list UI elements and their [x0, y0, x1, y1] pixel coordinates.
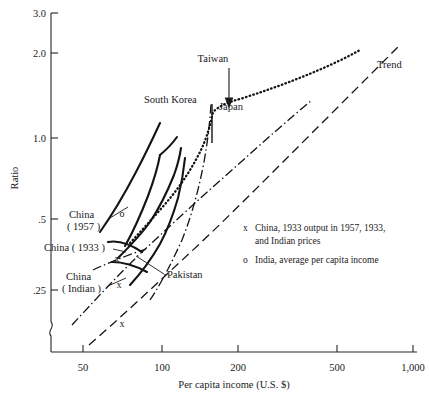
- ytick-label-2-0: 2.0: [33, 48, 46, 59]
- ytick-label-3-0: 3.0: [33, 8, 46, 19]
- legend-line-2: and Indian prices: [255, 236, 321, 246]
- chart-container: 3.0 2.0 1.0 .5 .25 Ratio 50 100 200 500 …: [0, 0, 429, 393]
- series-south-korea: [100, 123, 160, 232]
- y-axis-title: Ratio: [9, 167, 20, 190]
- legend-line-1: China, 1933 output in 1957, 1933,: [255, 223, 385, 233]
- label-china-1933: China ( 1933 ): [44, 242, 105, 254]
- label-south-korea: South Korea: [144, 94, 197, 105]
- xtick-label-500: 500: [329, 362, 345, 373]
- label-japan: Japan: [219, 101, 244, 112]
- legend-line-3: India, average per capita income: [255, 255, 379, 265]
- legend-marker-x: x: [243, 223, 248, 233]
- chart-svg: 3.0 2.0 1.0 .5 .25 Ratio 50 100 200 500 …: [0, 0, 429, 393]
- pakistan-curve: [72, 100, 312, 325]
- xtick-label-50: 50: [78, 362, 89, 373]
- legend: x China, 1933 output in 1957, 1933, and …: [243, 223, 385, 265]
- label-trend: Trend: [377, 59, 402, 70]
- china-1957-curve-upper: [160, 137, 177, 155]
- x-axis: 50 100 200 500 1,000 Per capita income (…: [51, 345, 425, 391]
- label-china-indian-line2: ( Indian ): [62, 283, 102, 295]
- xtick-label-1000: 1,000: [401, 362, 425, 373]
- xtick-label-200: 200: [230, 362, 246, 373]
- label-china-1957-line1: China: [69, 209, 94, 220]
- xtick-label-100: 100: [154, 362, 170, 373]
- series-taiwan: [130, 50, 360, 243]
- label-china-1957-line2: ( 1957 ): [67, 221, 101, 233]
- ytick-label-0-25: .25: [33, 285, 46, 296]
- ytick-label-0-5: .5: [38, 214, 46, 225]
- y-axis-break-symbol: [50, 322, 53, 352]
- series-pakistan: [72, 100, 312, 325]
- series-china-1957: [125, 137, 177, 246]
- label-taiwan: Taiwan: [198, 53, 230, 64]
- marker-x-1: x: [115, 253, 120, 264]
- y-axis: 3.0 2.0 1.0 .5 .25 Ratio: [9, 8, 58, 352]
- label-china-indian-line1: China: [66, 271, 91, 282]
- south-korea-curve: [100, 123, 160, 232]
- ytick-label-1-0: 1.0: [33, 133, 46, 144]
- series-trend: [89, 47, 398, 345]
- label-pakistan: Pakistan: [167, 269, 203, 280]
- trend-curve: [89, 47, 398, 345]
- marker-x-3: x: [120, 318, 125, 329]
- taiwan-curve: [130, 50, 360, 243]
- legend-marker-o: o: [243, 255, 248, 265]
- x-axis-title: Per capita income (U.S. $): [178, 379, 290, 391]
